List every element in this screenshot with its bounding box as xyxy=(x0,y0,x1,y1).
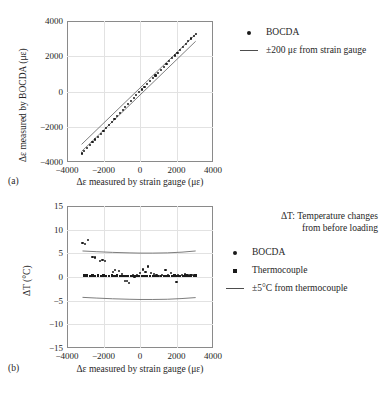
data-point-bocda xyxy=(113,118,115,120)
legend-item-bocda: BOCDA xyxy=(238,26,378,39)
gridline-horizontal xyxy=(67,324,213,325)
subfigure-label-a: (a) xyxy=(8,176,19,187)
x-tick-label: −2000 xyxy=(92,351,115,361)
legend-note-b: ΔT: Temperature changes from before load… xyxy=(224,210,378,234)
y-tick-label: 5 xyxy=(27,248,63,258)
gridline-horizontal xyxy=(67,56,213,57)
data-point-bocda xyxy=(141,88,143,90)
panel-b: −4000−2000020004000 −15−10−5051015 Δε me… xyxy=(0,190,381,394)
line-marker-icon xyxy=(224,288,246,290)
y-tick-label: −5 xyxy=(27,296,63,306)
data-point-bocda xyxy=(154,74,156,76)
data-point-bocda xyxy=(150,272,152,274)
y-tick-label: 15 xyxy=(27,201,63,211)
data-point-bocda xyxy=(164,269,166,271)
data-point-bocda xyxy=(165,63,167,65)
gridline-horizontal xyxy=(67,127,213,128)
data-point-bocda xyxy=(128,282,130,284)
legend-note-line-1: ΔT: Temperature changes xyxy=(224,210,378,222)
x-tick-label: 0 xyxy=(138,165,143,175)
x-axis-label-b: Δε measured by strain gauge (με) xyxy=(67,364,213,375)
subfigure-label-b: (b) xyxy=(8,363,19,374)
figure-container: −4000−2000020004000 −4000−2000020004000 … xyxy=(0,0,381,394)
legend-a: BOCDA ±200 με from strain gauge xyxy=(238,26,378,62)
data-point-bocda xyxy=(160,69,162,71)
data-point-thermocouple xyxy=(194,274,196,276)
data-point-bocda xyxy=(102,130,104,132)
legend-label: BOCDA xyxy=(252,246,285,259)
y-tick-label: −10 xyxy=(27,319,63,329)
dot-marker-icon xyxy=(238,31,260,35)
y-axis-label-a: Δε measured by BOCDA (με) xyxy=(18,48,29,162)
legend-label: ±200 με from strain gauge xyxy=(266,44,366,57)
y-tick-label: 0 xyxy=(27,87,63,97)
data-point-bocda xyxy=(163,66,165,68)
data-point-bocda xyxy=(81,152,83,154)
gridline-horizontal xyxy=(67,301,213,302)
data-point-bocda xyxy=(190,37,192,39)
legend-note-line-2: from before loading xyxy=(224,222,378,234)
legend-b: ΔT: Temperature changes from before load… xyxy=(224,210,378,300)
data-point-bocda xyxy=(111,121,113,123)
legend-item-temp-band: ±5°C from thermocouple xyxy=(224,282,378,295)
x-tick-label: 4000 xyxy=(204,351,222,361)
legend-item-strain-band: ±200 με from strain gauge xyxy=(238,44,378,57)
data-point-bocda xyxy=(185,43,187,45)
dot-marker-icon xyxy=(224,251,246,255)
data-point-bocda xyxy=(195,33,197,35)
data-point-bocda xyxy=(176,52,178,54)
y-axis-label-b: ΔT (°C) xyxy=(22,265,33,296)
plot-area-b xyxy=(67,206,213,348)
y-tick-label: 4000 xyxy=(27,16,63,26)
y-tick-label: −4000 xyxy=(27,157,63,167)
square-marker-icon xyxy=(224,269,246,273)
legend-label: Thermocouple xyxy=(252,264,307,277)
data-point-bocda xyxy=(175,281,177,283)
data-point-bocda xyxy=(174,54,176,56)
y-tick-label: −2000 xyxy=(27,122,63,132)
x-tick-label: 2000 xyxy=(168,165,186,175)
legend-label: BOCDA xyxy=(266,26,299,39)
gridline-horizontal xyxy=(67,230,213,231)
data-point-bocda xyxy=(143,86,145,88)
y-tick-label: 2000 xyxy=(27,51,63,61)
x-axis-label-a: Δε measured by strain gauge (με) xyxy=(67,177,213,188)
y-tick-label: 10 xyxy=(27,225,63,235)
y-tick-label: −15 xyxy=(27,343,63,353)
gridline-horizontal xyxy=(67,253,213,254)
x-tick-label: 2000 xyxy=(168,351,186,361)
x-tick-label: 4000 xyxy=(204,165,222,175)
legend-item-thermocouple: Thermocouple xyxy=(224,264,378,277)
legend-item-bocda: BOCDA xyxy=(224,246,378,259)
data-point-bocda xyxy=(170,272,172,274)
plot-area-a xyxy=(67,21,213,162)
data-point-bocda xyxy=(144,271,146,273)
x-tick-label: 0 xyxy=(138,351,143,361)
legend-label: ±5°C from thermocouple xyxy=(252,282,348,295)
panel-a: −4000−2000020004000 −4000−2000020004000 … xyxy=(0,0,381,197)
data-point-bocda xyxy=(97,136,99,138)
data-point-bocda xyxy=(100,133,102,135)
line-marker-icon xyxy=(238,50,260,52)
x-tick-label: −2000 xyxy=(92,165,115,175)
